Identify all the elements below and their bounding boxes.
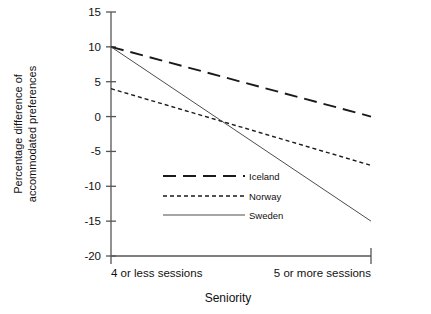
legend-label-sweden: Sweden (249, 210, 283, 221)
y-tick-label-0: 15 (88, 6, 101, 18)
chart-figure: 151050-5-10-15-20 IcelandNorwaySweden 4 … (0, 0, 431, 314)
y-tick-label-5: -10 (84, 180, 101, 192)
x-category-label-left: 4 or less sessions (111, 267, 203, 279)
series-line-norway (111, 89, 371, 166)
y-tick-label-6: -15 (84, 215, 101, 227)
chart-legend: IcelandNorwaySweden (163, 171, 283, 221)
series-line-iceland (111, 47, 371, 117)
legend-label-iceland: Iceland (249, 171, 280, 182)
legend-label-norway: Norway (249, 191, 281, 202)
y-tick-label-2: 5 (95, 76, 101, 88)
x-category-label-right: 5 or more sessions (274, 267, 371, 279)
line-chart-canvas: 151050-5-10-15-20 IcelandNorwaySweden 4 … (0, 0, 431, 314)
series-line-sweden (111, 47, 371, 221)
y-tick-label-3: 0 (95, 111, 101, 123)
x-axis-title: Seniority (205, 291, 252, 305)
data-series-group (111, 47, 371, 221)
y-tick-label-1: 10 (88, 41, 101, 53)
y-axis-title-line2: accommodated preferences (26, 65, 38, 202)
y-tick-label-4: -5 (91, 145, 101, 157)
y-axis-tick-labels: 151050-5-10-15-20 (84, 6, 101, 262)
y-axis-title-line1: Percentage difference of (12, 73, 24, 194)
y-tick-label-7: -20 (84, 250, 101, 262)
